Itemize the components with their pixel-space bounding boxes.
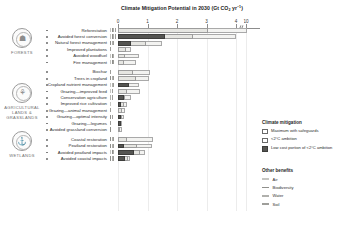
row-bullet [46, 62, 48, 64]
category-label-forests: FORESTS [2, 50, 42, 55]
co-benefit-soil [113, 83, 114, 87]
co-benefit-marks [110, 137, 114, 141]
bar-row[interactable] [118, 115, 260, 120]
co-benefit-soil [110, 70, 111, 74]
bar-row[interactable] [118, 83, 260, 88]
legend-label: Low cost portion of <2°C ambition [271, 146, 332, 151]
bar-row[interactable] [118, 121, 260, 126]
bar-row[interactable] [118, 89, 260, 94]
row-label[interactable]: Natural forest management [55, 40, 107, 45]
bar-row[interactable] [118, 47, 260, 52]
legend-benefit-item[interactable]: Air [262, 177, 362, 182]
category-agriculture[interactable]: ⚘AGRICULTURAL LANDS & GRASSLANDS [2, 83, 42, 121]
row-label[interactable]: Grazing—optimal intensity [57, 114, 107, 119]
co-benefit-marks [110, 54, 114, 58]
legend-title-benefits: Other benefits [262, 168, 362, 173]
row-label[interactable]: Biochar [92, 69, 107, 74]
co-benefit-marks [110, 115, 112, 119]
co-benefit-biodiversity [110, 127, 111, 131]
bar-segment-lowcost [118, 144, 124, 149]
bar-segment-lowcost [118, 34, 165, 39]
category-label-wetlands: WETLANDS [2, 153, 42, 158]
co-benefit-marks [110, 89, 112, 93]
row-label[interactable]: Avoided forest conversion [58, 34, 107, 39]
co-benefit-marks [110, 108, 111, 112]
legend-swatch [262, 138, 268, 144]
co-benefit-soil [113, 76, 114, 80]
row-label[interactable]: Coastal restoration [71, 137, 107, 142]
row-label[interactable]: Conservation agriculture [60, 95, 107, 100]
co-benefit-water [113, 54, 114, 58]
category-wetlands[interactable]: ⚓WETLANDS [2, 131, 42, 158]
bar-segment-lowcost [118, 95, 124, 100]
legend-benefit-item[interactable]: Water [262, 193, 362, 198]
row-bullet [46, 91, 48, 93]
co-benefit-soil [113, 41, 114, 45]
x-tick-mark [148, 24, 149, 28]
bar-row[interactable] [118, 156, 260, 161]
co-benefit-marks [110, 41, 114, 45]
forests-icon: ☗ [12, 28, 32, 48]
row-label[interactable]: Fire management [73, 60, 107, 65]
bar-row[interactable] [118, 144, 260, 149]
bar-row[interactable] [118, 95, 260, 100]
legend-benefit-item[interactable]: Soil [262, 202, 362, 207]
row-label[interactable]: Grazing—improved feed [60, 89, 107, 94]
bar-row[interactable] [118, 137, 260, 142]
bar-row[interactable] [118, 76, 260, 81]
legend-item[interactable]: Low cost portion of <2°C ambition [262, 146, 362, 152]
row-label[interactable]: Avoided grassland conversion [50, 127, 107, 132]
bar-row[interactable] [118, 34, 260, 39]
co-benefit-soil [112, 115, 113, 119]
bar-segment-lowcost [118, 150, 134, 155]
co-benefit-marks [110, 28, 115, 32]
co-benefit-water [113, 150, 114, 154]
row-label[interactable]: Grazing—legumes [71, 121, 107, 126]
row-label[interactable]: Avoided peatland impacts [58, 150, 107, 155]
x-tick-mark [246, 24, 247, 28]
bar-segment-ambition [118, 60, 124, 65]
bar-row[interactable] [118, 28, 260, 33]
bar-row[interactable] [118, 41, 260, 46]
row-label[interactable]: Avoided woodfuel [73, 53, 107, 58]
legend-item[interactable]: <2°C ambition [262, 137, 362, 143]
bar-segment-lowcost [118, 41, 131, 46]
row-label[interactable]: Improved rice cultivation [61, 101, 107, 106]
bar-row[interactable] [118, 108, 260, 113]
row-bullet [46, 123, 48, 125]
row-label[interactable]: Trees in cropland [74, 76, 107, 81]
row-label[interactable]: Avoided coastal impacts [61, 156, 107, 161]
bar-segment-ambition [118, 54, 125, 59]
bar-segment-ambition [118, 108, 122, 113]
legend-label: Maximum with safeguards [271, 129, 319, 134]
row-label[interactable]: Grazing—animal management [49, 108, 107, 113]
bar-row[interactable] [118, 60, 260, 65]
legend-benefit-item[interactable]: Biodiversity [262, 185, 362, 190]
category-forests[interactable]: ☗FORESTS [2, 28, 42, 55]
co-benefit-soil [112, 95, 113, 99]
bar-row[interactable] [118, 102, 260, 107]
agriculture-icon: ⚘ [12, 83, 32, 103]
bar-row[interactable] [118, 127, 260, 132]
row-bullet [46, 42, 48, 44]
bar-segment-lowcost [118, 115, 121, 120]
row-bullet [46, 129, 48, 131]
bar-row[interactable] [118, 150, 260, 155]
bar-segment-lowcost [118, 121, 121, 126]
row-label[interactable]: Improved plantations [67, 47, 107, 52]
legend-item[interactable]: Maximum with safeguards [262, 129, 362, 135]
x-tick-mark [118, 24, 119, 28]
row-bullet [46, 84, 48, 86]
bar-segment-ambition [118, 28, 208, 33]
row-label[interactable]: Reforestation [81, 28, 107, 33]
row-bullet [46, 158, 48, 160]
row-label[interactable]: Cropland nutrient management [48, 82, 107, 87]
co-benefit-soil [110, 47, 111, 51]
category-label-agriculture: AGRICULTURAL LANDS & GRASSLANDS [2, 105, 42, 121]
bar-row[interactable] [118, 54, 260, 59]
row-label[interactable]: Peatland restoration [69, 143, 107, 148]
co-benefit-soil [113, 60, 114, 64]
bar-row[interactable] [118, 70, 260, 75]
row-bullet [46, 71, 48, 73]
legend-benefit-label: Biodiversity [273, 185, 294, 190]
